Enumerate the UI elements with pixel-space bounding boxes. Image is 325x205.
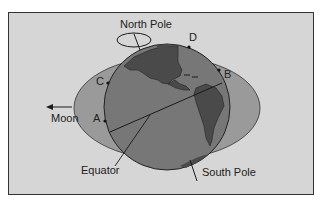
point-c-marker bbox=[106, 81, 109, 84]
north-pole-axis bbox=[134, 34, 140, 50]
point-a-marker bbox=[103, 119, 106, 122]
tidal-diagram: North Pole D B C A Moon Equator South Po… bbox=[0, 0, 325, 205]
label-a: A bbox=[93, 112, 101, 124]
label-north-pole: North Pole bbox=[120, 18, 172, 30]
label-b: B bbox=[224, 68, 231, 80]
label-moon: Moon bbox=[51, 112, 79, 124]
point-b-marker bbox=[217, 68, 220, 71]
moon-arrow-icon bbox=[46, 104, 53, 110]
label-south-pole: South Pole bbox=[202, 166, 256, 178]
point-d-marker bbox=[187, 45, 190, 48]
label-equator: Equator bbox=[81, 164, 120, 176]
label-d: D bbox=[189, 31, 197, 43]
label-c: C bbox=[96, 75, 104, 87]
